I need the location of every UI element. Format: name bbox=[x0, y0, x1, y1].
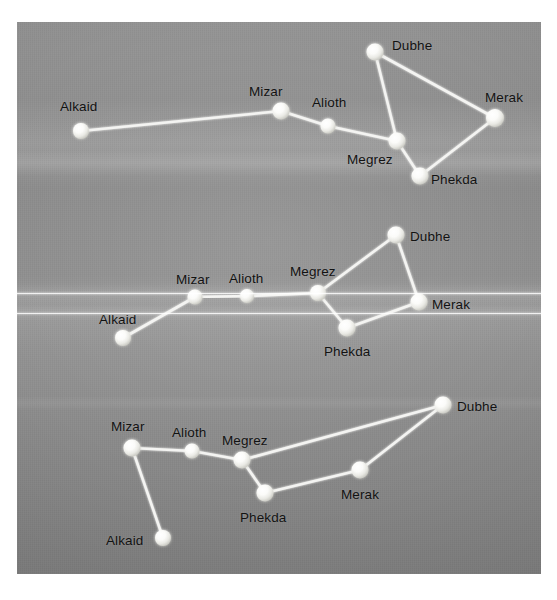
star-label-alioth: Alioth bbox=[312, 96, 346, 110]
star-label-phekda: Phekda bbox=[240, 511, 286, 525]
star-label-megrez: Megrez bbox=[222, 434, 268, 448]
star-label-merak: Merak bbox=[341, 488, 379, 502]
star-label-mizar: Mizar bbox=[111, 420, 145, 434]
star-label-mizar: Mizar bbox=[176, 273, 210, 287]
star-label-alkaid: Alkaid bbox=[99, 313, 136, 327]
star-label-merak: Merak bbox=[432, 298, 470, 312]
star-label-alkaid: Alkaid bbox=[60, 100, 97, 114]
star-label-megrez: Megrez bbox=[347, 153, 393, 167]
star-label-alioth: Alioth bbox=[229, 272, 263, 286]
star-label-dubhe: Dubhe bbox=[457, 400, 497, 414]
star-label-merak: Merak bbox=[485, 91, 523, 105]
star-label-alkaid: Alkaid bbox=[106, 534, 143, 548]
star-label-dubhe: Dubhe bbox=[392, 39, 432, 53]
star-label-phekda: Phekda bbox=[324, 345, 370, 359]
star-label-megrez: Megrez bbox=[290, 265, 336, 279]
star-label-dubhe: Dubhe bbox=[410, 230, 450, 244]
star-label-mizar: Mizar bbox=[249, 85, 283, 99]
star-label-phekda: Phekda bbox=[431, 173, 477, 187]
star-label-alioth: Alioth bbox=[172, 426, 206, 440]
image-canvas: AlkaidMizarAliothMegrezDubheMerakPhekdaA… bbox=[0, 0, 557, 600]
